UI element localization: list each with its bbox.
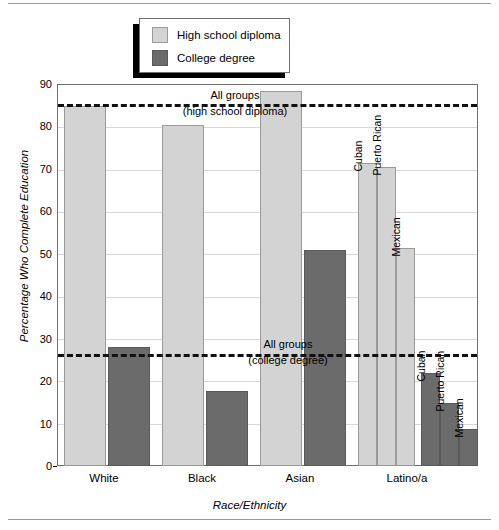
annotation-all-groups-cd-line2: (college degree) [223,354,353,367]
legend-swatch-college-degree [152,50,168,66]
x-tick-label-latino: Latino/a [353,472,461,484]
y-tick-label: 60 [12,206,52,217]
sublabel-cuban-hs: Cuban [353,141,364,172]
legend-item-high-school-diploma: High school diploma [152,26,281,44]
bar-asian-high-school-diploma [260,91,302,466]
legend-label-college-degree: College degree [177,52,255,64]
annotation-all-groups-hs-line1: All groups [170,89,300,102]
figure-top-rule [8,3,491,4]
bar-white-college-degree [108,347,150,466]
plot-surface: Cuban Puerto Rican Mexican Cuban Puerto … [58,85,477,466]
y-axis-ticks: 90 80 70 60 50 40 30 20 10 0 [8,0,52,530]
sublabel-puerto-rican-hs: Puerto Rican [372,115,383,176]
legend-item-college-degree: College degree [152,49,255,67]
bar-latino-mexican-high-school-diploma [396,248,415,466]
y-tick-label: 10 [12,419,52,430]
legend-label-high-school-diploma: High school diploma [177,29,281,41]
bar-latino-cuban-high-school-diploma [358,163,377,466]
sublabel-mexican-hs: Mexican [391,217,402,256]
y-tick-label: 80 [12,121,52,132]
y-tick-label: 20 [12,376,52,387]
chart-legend: High school diploma College degree [139,18,290,73]
x-tick-label-black: Black [157,472,247,484]
y-tick-label: 90 [12,79,52,90]
x-tick-label-white: White [59,472,149,484]
annotation-all-groups-cd-line1: All groups [223,338,353,351]
y-tick-label: 50 [12,249,52,260]
y-tick-label: 30 [12,334,52,345]
bar-black-high-school-diploma [162,125,204,466]
y-tick-mark [53,466,57,467]
y-tick-label: 70 [12,164,52,175]
chart-figure: Percentage Who Complete Education 90 80 … [0,0,499,530]
annotation-all-groups-hs-line2: (high school diploma) [170,105,300,118]
bar-white-high-school-diploma [64,106,106,466]
sublabel-mexican-cd: Mexican [454,398,465,437]
bar-black-college-degree [206,391,248,466]
figure-bottom-rule [8,519,491,520]
legend-swatch-high-school-diploma [152,27,168,43]
y-tick-label: 0 [12,461,52,472]
x-tick-label-asian: Asian [255,472,345,484]
sublabel-puerto-rican-cd: Puerto Rican [435,351,446,412]
bar-latino-puerto-rican-high-school-diploma [377,167,396,466]
x-axis-title: Race/Ethnicity [0,499,499,511]
y-tick-label: 40 [12,291,52,302]
